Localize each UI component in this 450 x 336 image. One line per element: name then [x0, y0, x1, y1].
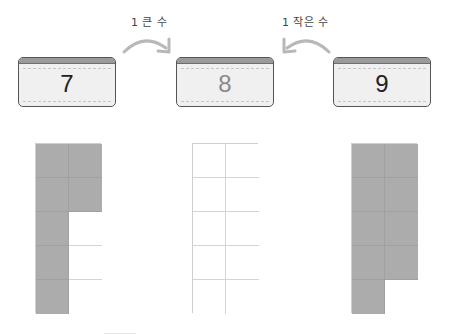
- number-card-7: 7: [18, 57, 116, 107]
- empty-cell[interactable]: [226, 144, 259, 178]
- filled-cell: [385, 212, 418, 246]
- card-top-band: [177, 58, 273, 64]
- card-number: 7: [19, 69, 115, 99]
- empty-cell[interactable]: [193, 144, 226, 178]
- empty-cell[interactable]: [193, 178, 226, 212]
- curved-arrow-left-icon: [278, 30, 333, 56]
- filled-cell: [352, 178, 385, 212]
- number-card-8: 8: [176, 57, 274, 107]
- filled-cell: [352, 144, 385, 178]
- ten-frame-8[interactable]: [192, 143, 258, 313]
- empty-cell: [69, 280, 102, 314]
- filled-cell: [352, 212, 385, 246]
- card-top-band: [334, 58, 430, 64]
- empty-cell[interactable]: [226, 246, 259, 280]
- filled-cell: [385, 144, 418, 178]
- label-one-less: 1 작은 수: [282, 13, 329, 29]
- filled-cell: [385, 178, 418, 212]
- card-number: 9: [334, 69, 430, 99]
- empty-cell[interactable]: [226, 178, 259, 212]
- number-card-9: 9: [333, 57, 431, 107]
- card-dash-line: [23, 101, 111, 102]
- card-number: 8: [177, 69, 273, 99]
- card-top-band: [19, 58, 115, 64]
- empty-cell[interactable]: [226, 280, 259, 314]
- empty-cell[interactable]: [193, 212, 226, 246]
- ten-frame-9: [351, 143, 417, 313]
- curved-arrow-right-icon: [120, 30, 175, 56]
- empty-cell: [385, 280, 418, 314]
- filled-cell: [36, 280, 69, 314]
- ten-frame-7: [35, 143, 101, 313]
- filled-cell: [36, 212, 69, 246]
- empty-cell[interactable]: [193, 246, 226, 280]
- filled-cell: [36, 144, 69, 178]
- empty-cell: [69, 246, 102, 280]
- card-dash-line: [181, 101, 269, 102]
- filled-cell: [352, 246, 385, 280]
- filled-cell: [36, 246, 69, 280]
- footer-divider: [104, 333, 136, 334]
- empty-cell[interactable]: [193, 280, 226, 314]
- filled-cell: [36, 178, 69, 212]
- filled-cell: [352, 280, 385, 314]
- empty-cell[interactable]: [226, 212, 259, 246]
- filled-cell: [69, 178, 102, 212]
- filled-cell: [69, 144, 102, 178]
- card-dash-line: [338, 101, 426, 102]
- filled-cell: [385, 246, 418, 280]
- empty-cell: [69, 212, 102, 246]
- label-one-more: 1 큰 수: [131, 13, 168, 29]
